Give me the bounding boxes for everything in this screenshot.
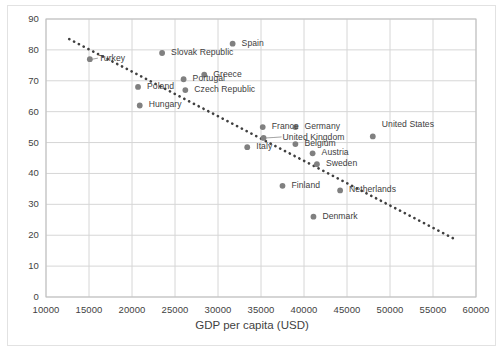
y-tick-label: 40 (13, 167, 39, 178)
x-axis-title: GDP per capita (USD) (0, 319, 504, 331)
point-label: Italy (256, 141, 272, 151)
leader-lines (92, 58, 281, 138)
point-label: Denmark (322, 211, 357, 221)
x-tick-label: 60000 (448, 304, 504, 315)
point-label: Sweden (326, 158, 357, 168)
y-tick-label: 80 (13, 44, 39, 55)
point-label: Greece (213, 69, 241, 79)
point-label: United States (382, 119, 434, 129)
point-label: Czech Republic (194, 84, 255, 94)
point-label: Germany (304, 121, 340, 131)
y-tick-label: 90 (13, 13, 39, 24)
chart-container: 0102030405060708090 10000150002000025000… (7, 5, 496, 346)
point-label: Poland (147, 81, 174, 91)
y-tick-label: 60 (13, 106, 39, 117)
scatter-plot (8, 6, 497, 347)
point-label: France (272, 121, 299, 131)
point-label: Spain (242, 38, 264, 48)
y-tick-label: 50 (13, 137, 39, 148)
y-tick-label: 0 (13, 291, 39, 302)
y-tick-label: 10 (13, 260, 39, 271)
point-label: Austria (322, 147, 349, 157)
y-tick-label: 70 (13, 75, 39, 86)
point-label: Hungary (149, 99, 182, 109)
y-tick-label: 30 (13, 198, 39, 209)
point-label: Slovak Republic (171, 47, 233, 57)
point-label: Finland (292, 180, 321, 190)
point-label: Netherlands (349, 184, 396, 194)
point-label: Turkey (99, 53, 125, 63)
y-tick-label: 20 (13, 229, 39, 240)
